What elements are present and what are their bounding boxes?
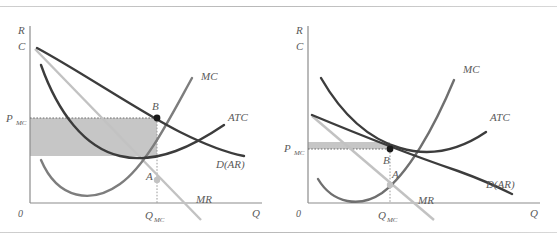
point-b-marker: [154, 115, 161, 122]
marginal-cost-curve: [318, 80, 454, 202]
mr-curve-label: MR: [195, 193, 212, 205]
mc-curve-label: MC: [200, 70, 218, 82]
left-panel: R C 0 Q P MC Q MC MC ATC D(AR) MR B A: [0, 8, 278, 230]
price-tick-label: P: [283, 142, 291, 154]
quantity-tick-label: Q: [378, 209, 386, 221]
point-a-marker: [387, 182, 393, 188]
economics-figure: R C 0 Q P MC Q MC MC ATC D(AR) MR B A: [0, 0, 557, 242]
right-panel: R C 0 Q P MC Q MC MC ATC D(AR) MR B A: [278, 8, 556, 230]
demand-curve: [312, 115, 512, 194]
mc-curve-label: MC: [462, 63, 480, 75]
atc-curve-label: ATC: [489, 111, 510, 123]
price-tick-label: P: [5, 112, 13, 124]
demand-curve-label: D(AR): [485, 178, 515, 191]
point-a-marker: [154, 177, 160, 183]
right-panel-plot: R C 0 Q P MC Q MC MC ATC D(AR) MR B A: [278, 8, 556, 230]
price-tick-sub: MC: [293, 149, 305, 157]
y-axis-label-c: C: [18, 40, 26, 52]
atc-curve-label: ATC: [227, 111, 248, 123]
mr-curve-label: MR: [417, 194, 434, 206]
demand-curve-label: D(AR): [215, 158, 245, 171]
point-b-marker: [387, 146, 394, 153]
point-a-label: A: [145, 170, 153, 182]
price-tick-sub: MC: [15, 119, 27, 127]
bottom-divider-rule: [0, 232, 557, 233]
origin-label: 0: [18, 208, 23, 219]
y-axis-label-c: C: [296, 40, 304, 52]
marginal-revenue-curve: [312, 116, 434, 220]
origin-label: 0: [296, 208, 301, 219]
x-axis-label-q: Q: [530, 207, 538, 219]
x-axis-label-q: Q: [252, 207, 260, 219]
y-axis-label-r: R: [295, 24, 303, 36]
economic-profit-area: [30, 118, 157, 156]
left-panel-plot: R C 0 Q P MC Q MC MC ATC D(AR) MR B A: [0, 8, 278, 230]
average-total-cost-curve: [321, 78, 486, 152]
quantity-tick-sub: MC: [153, 216, 165, 224]
point-a-label: A: [391, 168, 399, 180]
point-b-label: B: [383, 154, 390, 166]
y-axis-label-r: R: [17, 24, 25, 36]
quantity-tick-label: Q: [145, 209, 153, 221]
point-b-label: B: [152, 100, 159, 112]
quantity-tick-sub: MC: [386, 216, 398, 224]
top-divider-rule: [0, 6, 557, 7]
